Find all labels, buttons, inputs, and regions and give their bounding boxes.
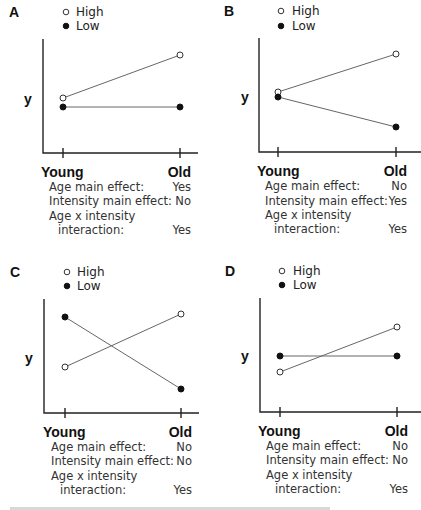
x-label-young: Young [257, 163, 300, 179]
point-low-old [177, 104, 183, 110]
row-interaction-label-2: interaction: [60, 483, 126, 497]
row-interaction-value: Yes [172, 483, 192, 497]
point-high-old [393, 51, 399, 57]
row-age-value: No [392, 439, 408, 453]
line-low [278, 97, 396, 127]
row-interaction-label-2: interaction: [58, 223, 124, 237]
y-axis-label: y [25, 350, 33, 366]
legend-low-label: Low [292, 19, 316, 33]
row-intensity-value: No [176, 454, 192, 468]
figure: A High Low y Young Old Age main effect: … [0, 0, 421, 510]
row-age-label: Age main effect: [266, 439, 361, 453]
axes [43, 39, 198, 153]
row-intensity-value: No [175, 194, 191, 208]
row-interaction-label-1: Age x intensity [51, 469, 137, 483]
row-interaction-value: Yes [387, 222, 407, 236]
point-low-old [394, 353, 400, 359]
line-high [65, 314, 181, 367]
row-intensity-value: No [392, 453, 408, 467]
legend-high-marker-icon [278, 8, 284, 14]
panel-a: A High Low y Young Old Age main effect: … [9, 4, 198, 237]
panel-c: C High Low y Young Old Age main effect: … [10, 264, 199, 497]
y-axis-label: y [241, 89, 249, 105]
row-age-label: Age main effect: [265, 179, 360, 193]
point-low-young [275, 94, 281, 100]
x-label-old: Old [384, 163, 407, 179]
x-label-young: Young [41, 164, 84, 180]
panel-letter: B [224, 3, 234, 19]
panel-b: B High Low y Young Old Age main effect: … [224, 3, 421, 236]
panel-d: D High Low y Young Old Age main effect: … [225, 263, 421, 496]
row-age-value: Yes [171, 180, 191, 194]
y-axis-label: y [241, 348, 249, 364]
row-age-value: No [176, 440, 192, 454]
legend-low-marker-icon [64, 283, 70, 289]
x-label-old: Old [385, 423, 408, 439]
legend-high-marker-icon [63, 9, 69, 15]
panel-letter: D [225, 263, 235, 279]
row-age-value: No [391, 179, 407, 193]
legend-low-label: Low [77, 279, 101, 293]
row-age-label: Age main effect: [49, 180, 144, 194]
row-age-label: Age main effect: [51, 440, 146, 454]
point-low-young [60, 104, 66, 110]
x-label-young: Young [43, 424, 86, 440]
legend-high-marker-icon [64, 269, 70, 275]
x-label-old: Old [168, 164, 191, 180]
row-intensity-label: Intensity main effect: [266, 453, 389, 467]
point-low-old [393, 124, 399, 130]
legend-high-label: High [292, 4, 320, 18]
line-low [65, 317, 181, 389]
panel-letter: C [10, 264, 20, 280]
row-interaction-label-1: Age x intensity [265, 208, 351, 222]
row-interaction-label-1: Age x intensity [266, 468, 352, 482]
row-intensity-value: Yes [387, 194, 407, 208]
legend-low-marker-icon [278, 23, 284, 29]
line-high [63, 55, 180, 98]
legend-low-marker-icon [63, 23, 69, 29]
point-high-young [277, 369, 283, 375]
legend-high-label: High [293, 264, 321, 278]
point-high-old [394, 324, 400, 330]
point-high-young [62, 364, 68, 370]
row-intensity-label: Intensity main effect: [49, 194, 172, 208]
row-intensity-label: Intensity main effect: [51, 454, 174, 468]
point-low-young [62, 314, 68, 320]
line-high [280, 327, 397, 372]
row-interaction-label-1: Age x intensity [49, 209, 135, 223]
point-low-young [277, 353, 283, 359]
legend-high-label: High [76, 5, 104, 19]
legend-low-label: Low [293, 278, 317, 292]
row-interaction-value: Yes [171, 223, 191, 237]
row-interaction-label-2: interaction: [274, 222, 340, 236]
legend-low-label: Low [76, 19, 100, 33]
row-intensity-label: Intensity main effect: [265, 194, 388, 208]
row-interaction-value: Yes [388, 482, 408, 496]
legend-high-label: High [77, 265, 105, 279]
panel-letter: A [9, 4, 19, 20]
x-label-old: Old [169, 424, 192, 440]
point-low-old [178, 386, 184, 392]
y-axis-label: y [24, 91, 32, 107]
point-high-young [60, 95, 66, 101]
point-high-old [177, 52, 183, 58]
legend-high-marker-icon [279, 268, 285, 274]
point-high-old [178, 311, 184, 317]
row-interaction-label-2: interaction: [275, 482, 341, 496]
x-label-young: Young [258, 423, 301, 439]
line-high [278, 54, 396, 92]
legend-low-marker-icon [279, 282, 285, 288]
